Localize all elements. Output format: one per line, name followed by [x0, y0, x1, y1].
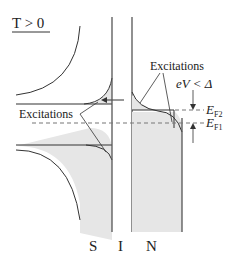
label-region-i: I [118, 238, 123, 254]
sin-tunnel-junction-diagram: T > 0 Excitations Excitations eV < Δ EF2… [0, 0, 231, 263]
label-excitations-top: Excitations [150, 59, 204, 73]
label-region-n: N [146, 238, 157, 254]
pointer-excitations-top-left [140, 73, 160, 103]
normal-metal-filled-states [132, 112, 182, 232]
label-bias-condition: eV < Δ [176, 76, 213, 91]
superconductor-upper-dos-curve [16, 26, 80, 95]
ev-arrow-down-icon [190, 104, 196, 110]
ev-arrow-up-icon [190, 123, 196, 129]
label-excitations-left: Excitations [19, 107, 73, 121]
label-region-s: S [89, 238, 97, 254]
title-temperature: T > 0 [12, 15, 44, 31]
